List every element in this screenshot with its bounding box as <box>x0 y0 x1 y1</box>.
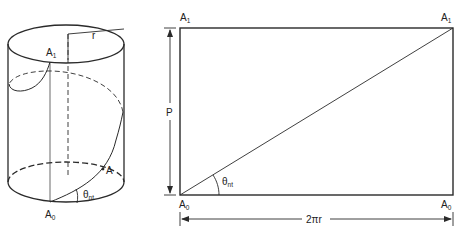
cylinder-angle-arc <box>76 189 78 203</box>
arrow-left-icon <box>181 216 189 222</box>
helix-back-dashed <box>9 71 123 112</box>
arrow-right-icon <box>444 216 452 222</box>
arrow-up-icon <box>167 29 173 37</box>
helix-unrolled-diagonal <box>180 28 453 195</box>
label-a1-top-left: A1 <box>180 12 191 24</box>
label-point-a: A <box>106 165 113 176</box>
label-a0-cylinder: A0 <box>45 209 56 221</box>
label-pitch-p: P <box>166 107 173 118</box>
label-angle-cylinder: θnt <box>83 189 94 201</box>
cylinder <box>8 25 124 203</box>
development-labels: A1 A1 A0 A0 P 2πr θnt <box>166 12 452 225</box>
label-circumference: 2πr <box>306 214 322 225</box>
point-a-dot <box>102 168 105 171</box>
helix-front-upper <box>9 62 50 91</box>
label-a1-top-right: A1 <box>441 12 452 24</box>
arrow-down-icon <box>167 186 173 194</box>
label-a1-cylinder: A1 <box>46 47 57 59</box>
helix-diagram: A1 r A θnt A0 A1 A1 A0 A0 P 2πr θnt <box>0 0 460 231</box>
label-angle-development: θnt <box>222 176 233 188</box>
label-a0-bottom-right: A0 <box>441 199 452 211</box>
label-a0-bottom-left: A0 <box>179 199 190 211</box>
cylinder-bottom-front <box>8 182 124 202</box>
development-angle-arc <box>213 175 219 195</box>
development <box>164 28 453 226</box>
